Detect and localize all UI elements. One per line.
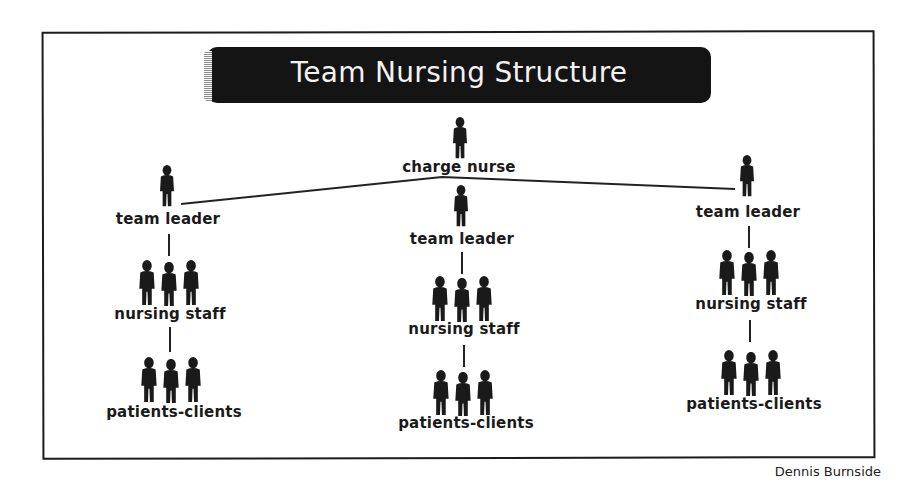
nursing-staff-1-label: nursing staff: [114, 305, 225, 323]
patients-clients-2-label: patients-clients: [398, 414, 534, 432]
team-3-connector-b: [749, 320, 751, 342]
nursing-staff-2-group-icon: [429, 276, 495, 322]
team-2-connector-a: [461, 252, 463, 274]
charge-nurse-label: charge nurse: [402, 158, 515, 176]
nursing-staff-1-group-icon: [136, 260, 202, 306]
patients-clients-1-label: patients-clients: [106, 403, 242, 421]
team-leader-2-label: team leader: [410, 230, 514, 248]
nursing-staff-3-group-icon: [716, 250, 782, 296]
team-1-connector-b: [169, 327, 171, 352]
nursing-staff-3-label: nursing staff: [695, 295, 806, 313]
patients-2-group-icon: [430, 370, 496, 416]
author-credit: Dennis Burnside: [775, 464, 881, 479]
team-2-connector-b: [463, 345, 465, 367]
team-leader-3-person-icon: [738, 155, 756, 197]
team-leader-1-person-icon: [158, 165, 176, 207]
charge-nurse-person-icon: [451, 117, 469, 159]
team-1-connector-a: [168, 234, 170, 256]
team-leader-3-label: team leader: [696, 203, 800, 221]
team-3-connector-a: [748, 226, 750, 248]
team-leader-1-label: team leader: [116, 210, 220, 228]
patients-clients-3-label: patients-clients: [686, 395, 822, 413]
patients-3-group-icon: [718, 350, 784, 396]
patients-1-group-icon: [138, 357, 204, 403]
team-leader-2-person-icon: [452, 185, 470, 227]
nursing-staff-2-label: nursing staff: [408, 320, 519, 338]
